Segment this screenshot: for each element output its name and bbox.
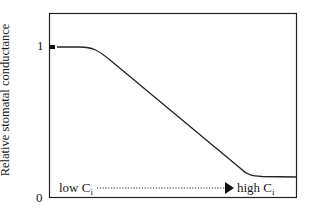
y-tick-one	[49, 45, 55, 49]
stomatal-conductance-chart: Relative stomatal conductance 1 0 low Ci…	[0, 0, 313, 213]
low-ci-text: low C	[59, 180, 90, 195]
low-ci-label: low Ci	[59, 180, 93, 197]
high-ci-text: high C	[237, 180, 272, 195]
high-ci-subscript: i	[272, 187, 275, 197]
y-tick-label-one: 1	[37, 38, 44, 54]
high-ci-label: high Ci	[237, 180, 275, 197]
plot-frame	[50, 14, 297, 198]
y-axis-label: Relative stomatal conductance	[0, 0, 14, 200]
conductance-curve	[57, 47, 296, 177]
low-ci-subscript: i	[90, 187, 93, 197]
arrow-head-icon	[225, 182, 234, 194]
y-tick-label-zero: 0	[36, 190, 43, 206]
